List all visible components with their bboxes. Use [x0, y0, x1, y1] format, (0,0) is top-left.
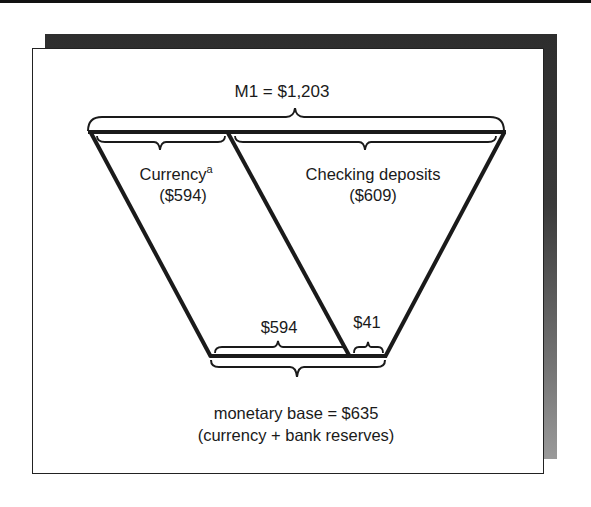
base-brace	[211, 360, 385, 377]
checking-label: Checking deposits	[306, 165, 441, 183]
reserves-brace	[354, 342, 383, 353]
m1-title: M1 = $1,203	[235, 82, 330, 101]
currency-label: Currencya	[139, 163, 213, 183]
checking-brace	[235, 136, 496, 150]
money-funnel-diagram: M1 = $1,203 Currencya ($594) Checking de…	[0, 0, 591, 507]
base-currency-brace	[215, 341, 347, 353]
footnote-mark: a	[206, 163, 213, 175]
base-currency-value: $594	[261, 318, 298, 336]
checking-value: ($609)	[349, 186, 397, 204]
reserves-value: $41	[353, 313, 381, 331]
base-sublabel: (currency + bank reserves)	[198, 426, 395, 444]
currency-value: ($594)	[159, 186, 207, 204]
base-label: monetary base = $635	[214, 404, 379, 422]
m1-brace	[88, 108, 504, 131]
currency-brace	[97, 136, 225, 150]
